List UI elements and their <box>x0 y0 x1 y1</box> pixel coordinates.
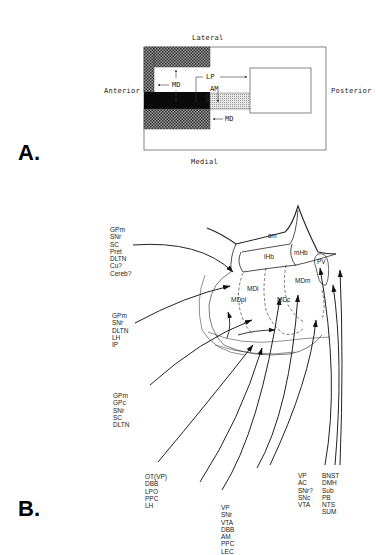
source-item: SNc <box>298 494 313 501</box>
source-item: DBB <box>221 526 234 533</box>
am-label: AM <box>210 85 218 93</box>
source-item: PPC <box>145 495 167 502</box>
region-lhb-label: lHb <box>264 253 274 260</box>
lp-box <box>250 68 311 113</box>
region-pv-label: PV <box>317 258 326 265</box>
source-item: LPO <box>145 488 167 495</box>
source-item: SNr <box>112 319 129 326</box>
source-item: SC <box>113 414 130 421</box>
source-item: IP <box>112 341 129 348</box>
source-item: Sub <box>322 487 339 494</box>
anterior-strip <box>144 47 154 92</box>
region-sm-label: sm <box>268 232 277 239</box>
source-item: AC <box>298 479 313 486</box>
source-item: AM <box>221 533 234 540</box>
source-list-group7: BNST DMH Sub PB NTS SUM <box>322 472 339 516</box>
source-list-group2: GPm SNr DLTN LH IP <box>112 312 129 348</box>
source-item: VTA <box>298 501 313 508</box>
source-item: SNr <box>221 511 234 518</box>
source-item: VP <box>298 472 313 479</box>
region-mdc-label: MDc <box>277 296 291 303</box>
md-lateral-block <box>154 47 210 67</box>
panel-b-letter: B. <box>18 496 40 522</box>
region-mhb-label: mHb <box>294 249 308 256</box>
region-mdpl-label: MDpl <box>231 296 247 304</box>
region-mdl-label: MDl <box>247 285 259 292</box>
black-band <box>144 92 210 109</box>
source-list-group6: VP AC SNr? SNc VTA <box>298 472 313 508</box>
source-item: Pret <box>110 248 131 255</box>
source-item: DBB <box>145 480 167 487</box>
source-item: SC <box>110 241 131 248</box>
source-item: SNr <box>110 233 131 240</box>
source-item: GPm <box>112 312 129 319</box>
source-item: SNr <box>113 407 130 414</box>
source-item: GPc <box>113 399 130 406</box>
source-item: PPC <box>221 540 234 547</box>
source-list-group5: VP SNr VTA DBB AM PPC LEC <box>221 504 234 555</box>
md-upper-label: MD <box>172 81 180 89</box>
region-mdm-label: MDm <box>295 277 311 284</box>
source-item: DLTN <box>113 421 130 428</box>
source-item: DLTN <box>112 327 129 334</box>
source-item: OT(VP) <box>145 473 167 480</box>
source-item: VTA <box>221 519 234 526</box>
source-item: LEC <box>221 548 234 555</box>
source-item: Cu? <box>110 262 131 269</box>
md-medial-block <box>144 109 210 129</box>
source-item: LH <box>112 334 129 341</box>
lp-label: LP <box>206 73 214 81</box>
source-list-group1: GPm SNr SC Pret DLTN Cu? Cereb? <box>110 226 131 277</box>
source-item: BNST <box>322 472 339 479</box>
source-item: Cereb? <box>110 270 131 277</box>
source-list-group4: OT(VP) DBB LPO PPC LH <box>145 473 167 509</box>
source-item: VP <box>221 504 234 511</box>
md-lower-label: MD <box>225 115 233 123</box>
source-item: DMH <box>322 479 339 486</box>
source-item: SNr? <box>298 487 313 494</box>
source-list-group3: GPm GPc SNr SC DLTN <box>113 392 130 428</box>
source-item: DLTN <box>110 255 131 262</box>
source-item: GPm <box>113 392 130 399</box>
source-item: SUM <box>322 508 339 515</box>
source-item: LH <box>145 502 167 509</box>
source-item: GPm <box>110 226 131 233</box>
source-item: NTS <box>322 501 339 508</box>
source-item: PB <box>322 494 339 501</box>
panel-b-diagram <box>133 206 342 490</box>
